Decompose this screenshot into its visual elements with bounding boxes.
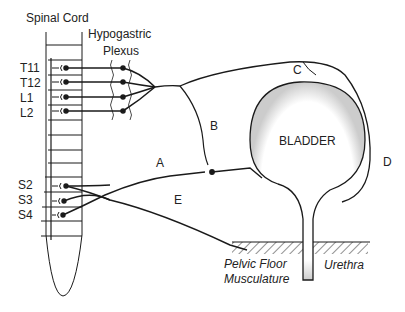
pelvic-floor [232, 242, 370, 254]
label-nerve-c: C [293, 63, 302, 77]
label-hypogastric: Hypogastric [88, 27, 151, 41]
label-plexus: Plexus [103, 44, 139, 58]
label-bladder: BLADDER [279, 134, 336, 148]
label-s4: S4 [18, 208, 33, 222]
label-urethra: Urethra [324, 258, 364, 272]
label-pelvic-floor: Pelvic Floor [224, 257, 288, 271]
label-s3: S3 [18, 193, 33, 207]
label-nerve-b: B [210, 119, 218, 133]
label-spinal-cord: Spinal Cord [26, 11, 89, 25]
parasympathetic-fibers [52, 168, 262, 250]
bladder-innervation-diagram: Spinal Cord Hypogastric Plexus T11 T12 L… [0, 0, 405, 312]
spinal-cord [41, 32, 82, 296]
label-l2: L2 [20, 106, 34, 120]
label-t11: T11 [20, 61, 40, 75]
label-nerve-d: D [383, 155, 392, 169]
label-t12: T12 [20, 76, 41, 90]
label-nerve-a: A [156, 156, 164, 170]
label-musculature: Musculature [224, 272, 290, 286]
label-l1: L1 [20, 91, 34, 105]
label-s2: S2 [18, 178, 33, 192]
label-nerve-e: E [174, 193, 182, 207]
